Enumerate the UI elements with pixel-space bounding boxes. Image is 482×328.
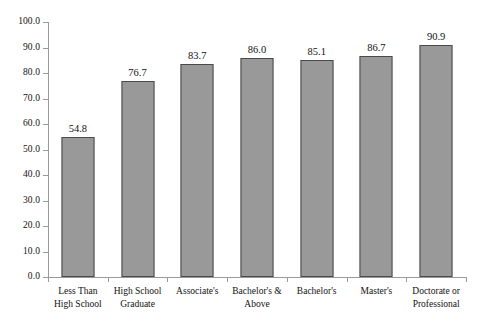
- bar-slot: 86.7: [347, 22, 407, 277]
- bar[interactable]: [181, 64, 214, 277]
- bar-slot: 76.7: [108, 22, 168, 277]
- bar-value-label: 86.0: [248, 44, 266, 55]
- x-axis-tick: [227, 277, 228, 282]
- bar-value-label: 76.7: [128, 67, 146, 78]
- bar[interactable]: [420, 45, 453, 277]
- x-axis-tick: [406, 277, 407, 282]
- y-axis-tick-label: 100.0: [0, 17, 40, 27]
- y-axis-tick-label: 40.0: [0, 170, 40, 180]
- bar-value-label: 83.7: [188, 50, 206, 61]
- x-axis-tick: [347, 277, 348, 282]
- y-axis-tick-label: 70.0: [0, 94, 40, 104]
- bar-slot: 54.8: [48, 22, 108, 277]
- y-axis-tick-label: 30.0: [0, 196, 40, 206]
- plot-area: 54.876.783.786.085.186.790.9: [48, 22, 466, 277]
- y-axis-tick-label: 60.0: [0, 119, 40, 129]
- x-axis-category-label-line: Above: [221, 298, 293, 311]
- x-axis-tick: [287, 277, 288, 282]
- y-axis-tick-label: 20.0: [0, 221, 40, 231]
- bar[interactable]: [300, 60, 333, 277]
- bar[interactable]: [121, 81, 154, 277]
- y-axis-tick-label: 0.0: [0, 272, 40, 282]
- bar[interactable]: [240, 58, 273, 277]
- x-axis-line: [48, 277, 466, 278]
- y-axis-tick-label: 90.0: [0, 43, 40, 53]
- x-axis-category-label: Doctorate orProfessional: [400, 285, 472, 310]
- x-axis-category-label-line: Graduate: [102, 298, 174, 311]
- bar-slot: 90.9: [406, 22, 466, 277]
- bar-value-label: 85.1: [308, 46, 326, 57]
- x-axis-category-label-line: Doctorate or: [400, 285, 472, 298]
- bar-slot: 83.7: [167, 22, 227, 277]
- y-axis-tick-label: 80.0: [0, 68, 40, 78]
- x-axis-category-labels: Less ThanHigh SchoolHigh SchoolGraduateA…: [48, 285, 466, 325]
- bar[interactable]: [61, 137, 94, 277]
- x-axis-tick: [466, 277, 467, 282]
- bar-slot: 86.0: [227, 22, 287, 277]
- y-axis-tick-label: 10.0: [0, 247, 40, 257]
- x-axis-category-label-line: Professional: [400, 298, 472, 311]
- x-axis-tick: [167, 277, 168, 282]
- bar[interactable]: [360, 56, 393, 277]
- x-axis-tick: [108, 277, 109, 282]
- bar-chart: 0.010.020.030.040.050.060.070.080.090.01…: [0, 0, 482, 328]
- bar-value-label: 90.9: [427, 31, 445, 42]
- y-axis-tick-label: 50.0: [0, 145, 40, 155]
- bar-slot: 85.1: [287, 22, 347, 277]
- x-axis-tick: [48, 277, 49, 282]
- bar-value-label: 86.7: [367, 42, 385, 53]
- bar-value-label: 54.8: [69, 123, 87, 134]
